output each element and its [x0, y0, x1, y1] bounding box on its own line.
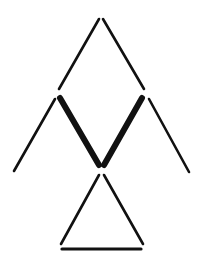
segment-upper-right: [103, 19, 144, 89]
segment-outer-right: [149, 99, 189, 172]
segment-lower-left: [61, 175, 99, 244]
segment-lower-right: [104, 175, 143, 244]
segment-outer-left: [14, 99, 55, 171]
line-drawing-canvas: [0, 0, 199, 265]
segment-thick-left: [60, 98, 99, 165]
segment-thick-right: [104, 98, 142, 165]
line-figure: [0, 0, 199, 265]
segment-upper-left: [59, 19, 99, 89]
